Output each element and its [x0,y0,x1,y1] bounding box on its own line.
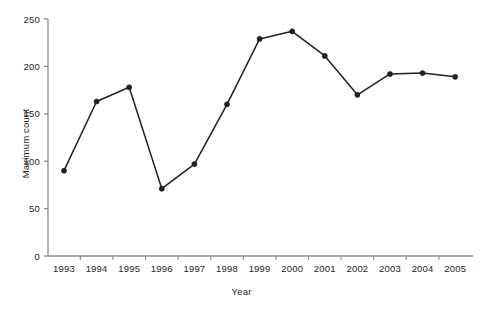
data-point-marker [61,168,66,173]
y-axis-tick-label: 150 [24,108,40,119]
y-axis-tick-label: 50 [29,203,40,214]
data-point-marker [94,99,99,104]
plot-area: 050100150200250 199319941995199619971998… [0,0,483,311]
data-point-marker [159,186,164,191]
x-axis-tick-label: 1995 [118,263,140,274]
x-axis: 1993199419951996199719981999200020012002… [48,256,473,274]
x-axis-tick-label: 1994 [86,263,108,274]
data-point-marker [322,53,327,58]
data-series-maximum-count [61,29,457,192]
data-point-marker [355,92,360,97]
data-point-marker [387,71,392,76]
series-line [64,31,455,188]
data-point-marker [224,102,229,107]
x-axis-tick-label: 2003 [379,263,401,274]
data-point-marker [420,70,425,75]
x-axis-tick-label: 1999 [249,263,271,274]
x-axis-tick-label: 1993 [53,263,75,274]
data-point-marker [453,74,458,79]
x-axis-tick-label: 2002 [346,263,368,274]
y-axis-tick-label: 250 [24,14,40,25]
x-axis-tick-label: 1997 [183,263,205,274]
x-axis-tick-label: 1998 [216,263,238,274]
data-point-marker [127,85,132,90]
y-axis-tick-label: 200 [24,61,40,72]
y-axis-tick-label: 100 [24,156,40,167]
data-point-marker [192,161,197,166]
y-axis-tick-label: 0 [35,251,40,262]
x-axis-tick-label: 2001 [314,263,336,274]
x-axis-tick-label: 2005 [444,263,466,274]
x-axis-tick-label: 1996 [151,263,173,274]
line-chart: Maximum count Year 050100150200250 19931… [0,0,483,311]
x-axis-tick-label: 2004 [412,263,434,274]
data-point-marker [290,29,295,34]
x-axis-tick-label: 2000 [281,263,303,274]
data-point-marker [257,36,262,41]
y-axis: 050100150200250 [24,14,48,262]
